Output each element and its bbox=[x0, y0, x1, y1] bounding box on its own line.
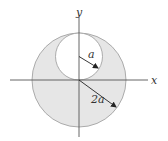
x-axis-label: x bbox=[151, 74, 158, 87]
geometry-diagram: y x a 2a bbox=[0, 0, 168, 141]
radius-a-label: a bbox=[88, 48, 95, 61]
radius-2a-label: 2a bbox=[90, 93, 105, 106]
y-axis-label: y bbox=[75, 6, 83, 19]
